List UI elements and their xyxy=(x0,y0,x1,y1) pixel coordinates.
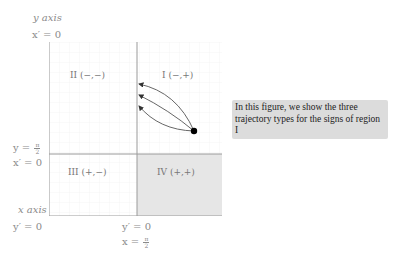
x-axis-label: x axis xyxy=(18,204,47,216)
pi-over-2-fraction: π 2 xyxy=(143,236,149,249)
y-axis-label: y axis xyxy=(33,12,62,24)
mid-left-equation: y = π 2 xyxy=(13,142,40,155)
region-iv-shade xyxy=(137,154,222,216)
region-ii-label: II (−,−) xyxy=(70,70,105,80)
bottom-left-equation: y′ = 0 xyxy=(13,221,42,233)
region-iv-label: IV (+,+) xyxy=(157,167,195,177)
pi-over-2-fraction: π 2 xyxy=(34,142,40,155)
region-iii-label: III (+,−) xyxy=(68,167,107,177)
mid-left-equation-2: x′ = 0 xyxy=(13,157,42,169)
bottom-center-equation: y′ = 0 xyxy=(122,221,151,233)
caption-note: In this figure, we show the three trajec… xyxy=(232,100,388,139)
bottom-center-equation-2: x = π 2 xyxy=(122,236,149,249)
initial-point xyxy=(191,128,197,134)
phase-plane xyxy=(49,42,222,216)
region-i-label: I (−,+) xyxy=(162,70,193,80)
top-left-equation: x′ = 0 xyxy=(32,29,61,41)
